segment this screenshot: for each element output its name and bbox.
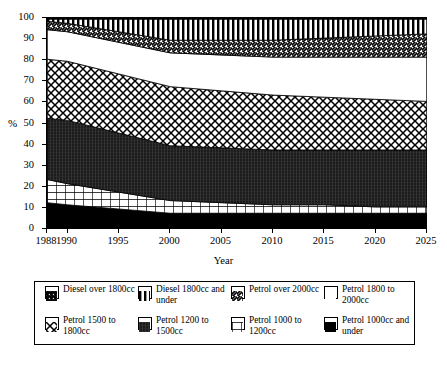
y-tick-label: 60 — [8, 96, 34, 106]
legend-label: Petrol 1500 to 1800cc — [63, 315, 135, 336]
y-tick-label: 30 — [8, 160, 34, 170]
y-tick-label: 100 — [8, 12, 34, 22]
legend-swatch-icon — [45, 286, 59, 299]
legend-label: Petrol 1000cc and under — [342, 315, 414, 336]
legend-item[interactable]: Petrol 1500 to 1800cc — [41, 316, 135, 344]
legend-label: Diesel over 1800cc — [63, 284, 135, 295]
legend-item[interactable]: Petrol 1200 to 1500cc — [134, 316, 228, 344]
legend-swatch-icon — [231, 317, 245, 330]
legend-row-2: Petrol 1500 to 1800ccPetrol 1200 to 1500… — [35, 313, 414, 344]
legend-swatch-icon — [231, 286, 245, 299]
y-tick-label: 80 — [8, 54, 34, 64]
x-tick-label: 1990 — [47, 236, 87, 246]
y-tick-label: 70 — [8, 75, 34, 85]
chart-legend: Diesel over 1800ccDiesel 1800cc and unde… — [34, 281, 415, 345]
x-tick-label: 2015 — [303, 236, 343, 246]
legend-label: Petrol 1200 to 1500cc — [156, 315, 228, 336]
stacked-area-svg — [47, 17, 427, 228]
legend-label: Petrol over 2000cc — [249, 284, 321, 295]
legend-item[interactable]: Petrol 1800 to 2000cc — [320, 285, 414, 313]
x-axis-label: Year — [0, 255, 447, 266]
y-tick-label: 90 — [8, 33, 34, 43]
legend-item[interactable]: Diesel 1800cc and under — [134, 285, 228, 313]
x-tick-label: 2000 — [149, 236, 189, 246]
y-tick-label: 20 — [8, 181, 34, 191]
legend-item[interactable]: Diesel over 1800cc — [41, 285, 135, 313]
legend-swatch-icon — [324, 317, 338, 330]
x-tick-label: 2025 — [406, 236, 446, 246]
x-tick-mark — [46, 229, 47, 233]
legend-swatch-icon — [45, 317, 59, 330]
legend-label: Diesel 1800cc and under — [156, 284, 228, 305]
x-tick-label: 1995 — [98, 236, 138, 246]
y-tick-label: 40 — [8, 139, 34, 149]
y-tick-label: 10 — [8, 202, 34, 212]
legend-label: Petrol 1000 to 1200cc — [249, 315, 321, 336]
x-tick-label: 2010 — [252, 236, 292, 246]
x-tick-mark — [221, 229, 222, 233]
x-tick-mark — [426, 229, 427, 233]
x-tick-mark — [67, 229, 68, 233]
legend-swatch-icon — [138, 317, 152, 330]
x-tick-mark — [323, 229, 324, 233]
plot-area — [46, 17, 427, 229]
legend-item[interactable]: Petrol 1000 to 1200cc — [227, 316, 321, 344]
x-tick-mark — [169, 229, 170, 233]
x-tick-label: 2020 — [355, 236, 395, 246]
legend-item[interactable]: Petrol over 2000cc — [227, 285, 321, 313]
chart-figure: % Year 1009080706050403020100 1988199019… — [0, 0, 447, 371]
legend-item[interactable]: Petrol 1000cc and under — [320, 316, 414, 344]
legend-label: Petrol 1800 to 2000cc — [342, 284, 414, 305]
x-tick-label: 2005 — [201, 236, 241, 246]
y-tick-label: 50 — [8, 118, 34, 128]
x-tick-mark — [118, 229, 119, 233]
x-tick-mark — [375, 229, 376, 233]
x-tick-mark — [272, 229, 273, 233]
legend-swatch-icon — [138, 286, 152, 299]
legend-swatch-icon — [324, 286, 338, 299]
y-tick-label: 0 — [8, 223, 34, 233]
legend-row-1: Diesel over 1800ccDiesel 1800cc and unde… — [35, 282, 414, 313]
